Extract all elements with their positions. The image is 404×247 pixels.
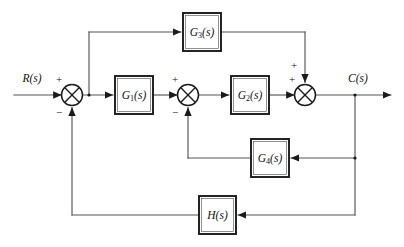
- block-g1[interactable]: G1(s): [115, 76, 153, 114]
- path-g4-to-sum2: [188, 108, 251, 159]
- sum3-plus-sign-top: +: [291, 59, 297, 71]
- block-diagram-canvas: G1(s) G2(s) G3(s) G4(s) H(s): [0, 0, 404, 247]
- sum1-minus-sign: −: [56, 106, 62, 118]
- summing-junction-1[interactable]: [62, 85, 83, 106]
- summing-junction-3[interactable]: [295, 85, 316, 106]
- branch-point-g3-tap: [87, 93, 90, 96]
- block-h-label: H(s): [206, 208, 228, 221]
- branch-point-output-tap: [353, 93, 356, 96]
- block-g3[interactable]: G3(s): [183, 13, 221, 51]
- input-label-rs: R(s): [21, 72, 41, 85]
- summing-junction-2[interactable]: [178, 85, 199, 106]
- block-g4[interactable]: G4(s): [251, 139, 289, 177]
- output-label-cs: C(s): [348, 72, 368, 85]
- path-h-to-sum1: [72, 108, 199, 216]
- sum2-minus-sign: −: [172, 106, 178, 118]
- sum2-plus-sign: +: [172, 73, 178, 85]
- sum1-plus-sign: +: [56, 73, 62, 85]
- branch-point-g4-h-tap: [353, 156, 356, 159]
- block-g2[interactable]: G2(s): [231, 76, 269, 114]
- sum3-plus-sign-left: +: [289, 73, 295, 85]
- block-h[interactable]: H(s): [199, 196, 236, 234]
- block-diagram-svg: G1(s) G2(s) G3(s) G4(s) H(s): [0, 0, 404, 247]
